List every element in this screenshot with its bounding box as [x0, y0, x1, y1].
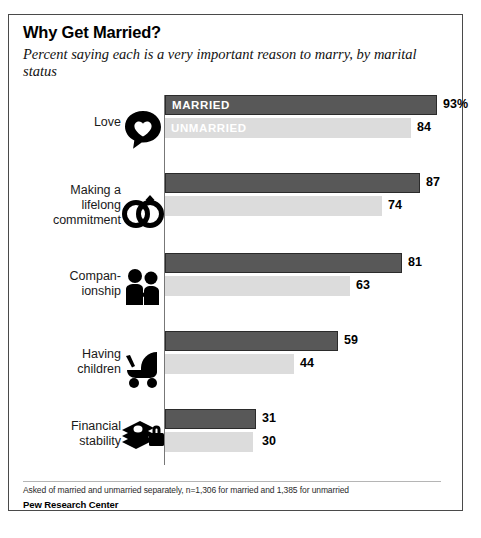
- bar-group: MARRIED 93% UNMARRIED 84: [165, 93, 451, 167]
- chart-row-financial: Financial stability 31 30: [23, 407, 451, 467]
- chart-row-love: Love MARRIED 93% UNMARRIED 84: [23, 93, 451, 167]
- bar-group: 59 44: [165, 329, 451, 405]
- value-label-unmarried: 44: [300, 356, 314, 370]
- category-label: Making a lifelong commitment: [23, 183, 121, 228]
- bar-unmarried: [165, 354, 294, 374]
- bar-unmarried: [165, 276, 350, 296]
- series-label-unmarried: UNMARRIED: [171, 122, 247, 134]
- value-label-unmarried: 30: [262, 434, 276, 448]
- footer-divider: [23, 481, 441, 482]
- value-label-unmarried: 84: [417, 120, 431, 134]
- chart-row-companionship: Compan- ionship 81 63: [23, 251, 451, 327]
- bar-group: 31 30: [165, 407, 451, 467]
- bar-group: 81 63: [165, 251, 451, 327]
- footnote: Asked of married and unmarried separatel…: [23, 485, 443, 495]
- value-label-married: 81: [408, 255, 422, 269]
- bar-unmarried: [165, 196, 382, 216]
- bar-married: [165, 409, 256, 429]
- bar-group: 87 74: [165, 171, 451, 249]
- money-lock-icon: [123, 407, 163, 467]
- bar-married: [165, 173, 420, 193]
- chart-row-children: Having children 59 44: [23, 329, 451, 405]
- category-label: Financial stability: [23, 419, 121, 449]
- value-label-married: 31: [262, 411, 276, 425]
- category-label: Having children: [23, 347, 121, 377]
- bar-married: [165, 331, 338, 351]
- chart-subtitle: Percent saying each is a very important …: [23, 46, 443, 80]
- value-label-married: 87: [426, 175, 440, 189]
- value-label-married: 59: [344, 333, 358, 347]
- series-label-married: MARRIED: [172, 99, 230, 111]
- wedding-rings-icon: [123, 171, 163, 249]
- bar-married: [165, 253, 402, 273]
- value-label-unmarried: 63: [356, 278, 370, 292]
- chart-title: Why Get Married?: [23, 23, 161, 42]
- couple-icon: [123, 251, 163, 327]
- bar-unmarried: [165, 432, 253, 452]
- value-label-unmarried: 74: [388, 198, 402, 212]
- value-label-married: 93%: [443, 97, 468, 111]
- category-label: Love: [23, 115, 121, 130]
- heart-speech-bubble-icon: [123, 93, 163, 167]
- chart-plot-area: Love MARRIED 93% UNMARRIED 84: [23, 93, 451, 468]
- category-label: Compan- ionship: [23, 269, 121, 299]
- bar-married: MARRIED: [165, 95, 437, 115]
- baby-stroller-icon: [123, 329, 163, 405]
- bar-unmarried: UNMARRIED: [165, 118, 411, 138]
- source-label: Pew Research Center: [23, 499, 443, 510]
- chart-footer: Asked of married and unmarried separatel…: [23, 485, 443, 510]
- chart-row-commitment: Making a lifelong commitment 87 74: [23, 171, 451, 249]
- chart-figure: Why Get Married? Percent saying each is …: [8, 14, 463, 511]
